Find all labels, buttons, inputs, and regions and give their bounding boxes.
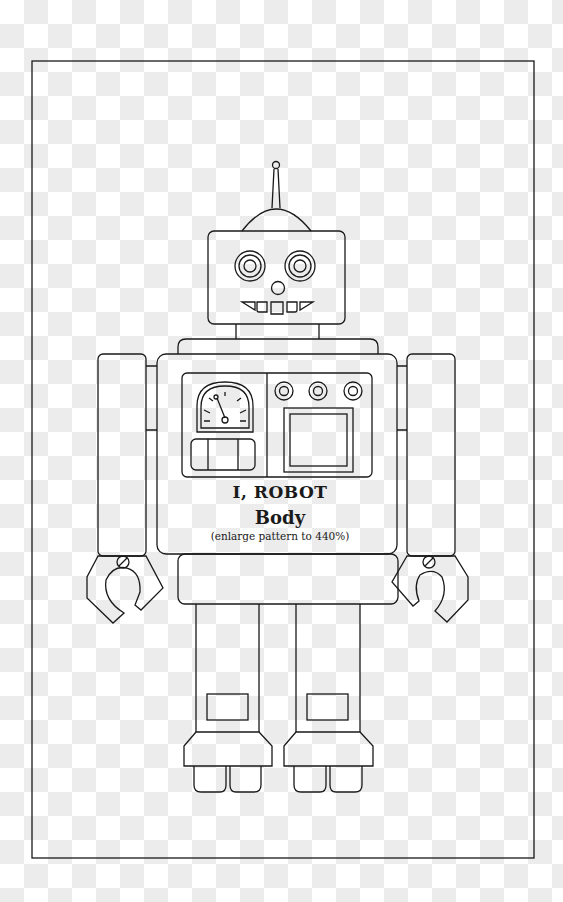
neck-icon [236,324,319,339]
gauge-icon [197,382,253,432]
right-boot-icon [284,732,373,766]
knob-icon [309,382,327,400]
nose-icon [272,282,285,295]
right-leg-icon [296,604,360,732]
knob-icon [275,382,293,400]
left-claw-icon [87,556,163,623]
head-icon [208,231,345,324]
hips-icon [178,554,398,604]
left-arm-icon [98,354,146,556]
right-knee-panel-icon [307,694,348,720]
right-claw-icon [392,556,468,622]
switch-panel-icon [191,439,255,470]
knob-icon [344,382,362,400]
right-foot-icon [294,766,362,792]
left-leg-icon [196,604,259,732]
antenna-icon [272,169,280,208]
pattern-title: I, ROBOT [180,482,380,502]
left-knee-panel-icon [207,694,248,720]
left-boot-icon [184,732,272,766]
teeth-icon [242,302,313,314]
pattern-subtitle: Body [180,507,380,528]
robot-pattern-drawing [0,0,563,902]
legs-group [184,604,373,792]
screen-icon [284,408,353,472]
page-frame [32,61,534,858]
torso-group [157,339,398,604]
right-arm-group [392,354,468,622]
left-arm-group [87,354,163,623]
left-foot-icon [194,766,261,792]
antenna-ball-icon [273,162,280,169]
shoulder-icon [178,339,378,354]
enlarge-note: (enlarge pattern to 440%) [180,530,380,542]
head-group [208,162,345,340]
right-arm-icon [407,354,455,556]
dome-icon [242,209,311,231]
